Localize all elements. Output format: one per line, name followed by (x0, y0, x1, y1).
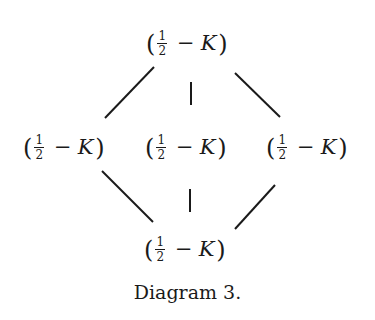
operator: − (54, 137, 72, 158)
denominator: 2 (156, 250, 164, 263)
close-paren: ) (218, 32, 227, 56)
numerator: 1 (155, 236, 165, 250)
numerator: 1 (157, 30, 167, 44)
fraction: 12 (34, 134, 44, 161)
operator: − (176, 137, 194, 158)
variable: K (200, 137, 216, 158)
edge-top-right (235, 73, 280, 117)
operator: − (297, 137, 315, 158)
close-paren: ) (216, 238, 225, 262)
variable: K (199, 239, 215, 260)
open-paren: ( (23, 136, 32, 160)
close-paren: ) (95, 136, 104, 160)
variable: K (321, 137, 337, 158)
open-paren: ( (144, 238, 153, 262)
edge-top-left (105, 67, 154, 118)
variable: K (201, 33, 217, 54)
node-top: ( 12 − K ) (146, 30, 228, 57)
denominator: 2 (278, 148, 286, 161)
denominator: 2 (35, 148, 43, 161)
fraction: 12 (156, 134, 166, 161)
node-center: ( 12 − K ) (145, 134, 227, 161)
numerator: 1 (34, 134, 44, 148)
fraction: 12 (157, 30, 167, 57)
operator: − (175, 239, 193, 260)
fraction: 12 (155, 236, 165, 263)
edge-left-bottom (102, 171, 153, 222)
fraction: 12 (277, 134, 287, 161)
close-paren: ) (338, 136, 347, 160)
close-paren: ) (217, 136, 226, 160)
open-paren: ( (146, 32, 155, 56)
node-right: ( 12 − K ) (266, 134, 348, 161)
numerator: 1 (156, 134, 166, 148)
denominator: 2 (158, 44, 166, 57)
open-paren: ( (145, 136, 154, 160)
denominator: 2 (157, 148, 165, 161)
variable: K (78, 137, 94, 158)
numerator: 1 (277, 134, 287, 148)
operator: − (177, 33, 195, 54)
open-paren: ( (266, 136, 275, 160)
node-left: ( 12 − K ) (23, 134, 105, 161)
diagram-caption: Diagram 3. (0, 281, 375, 303)
node-bottom: ( 12 − K ) (144, 236, 226, 263)
edge-right-bottom (235, 185, 275, 229)
